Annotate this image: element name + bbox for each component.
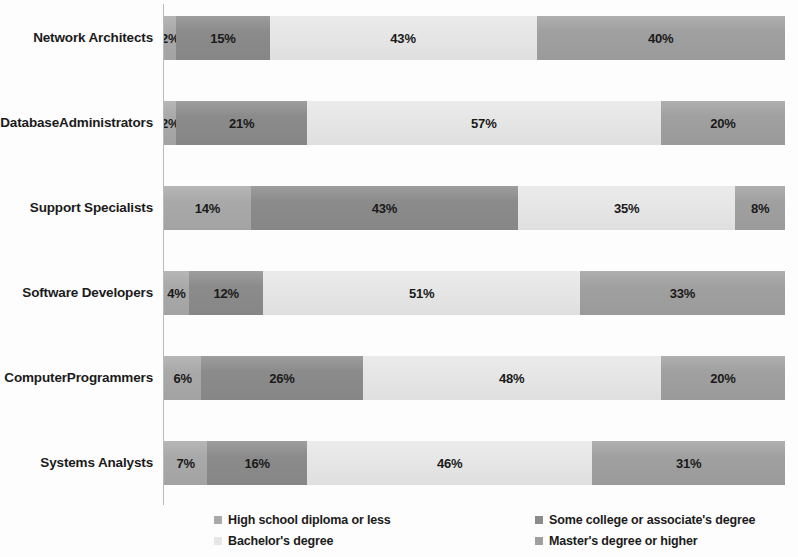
segment-value-label: 2% <box>164 116 176 131</box>
bar-row: Network Architects2%15%43%40% <box>0 16 798 101</box>
category-label-line: Support Specialists <box>30 200 153 216</box>
bar-segment: 2% <box>164 101 176 145</box>
category-label: Systems Analysts <box>0 441 155 485</box>
segment-value-label: 43% <box>372 201 397 216</box>
legend-item[interactable]: High school diploma or less <box>214 511 391 529</box>
legend-label: Some college or associate's degree <box>549 513 755 527</box>
stacked-bar: 4%12%51%33% <box>164 271 785 315</box>
bar-segment: 20% <box>661 101 785 145</box>
legend-swatch-icon <box>214 537 222 545</box>
stacked-bar: 7%16%46%31% <box>164 441 785 485</box>
category-label: Network Architects <box>0 16 155 60</box>
bar-segment: 4% <box>164 271 189 315</box>
stacked-bar: 14%43%35%8% <box>164 186 785 230</box>
legend-label: Bachelor's degree <box>228 534 333 548</box>
category-label: ComputerProgrammers <box>0 356 155 400</box>
category-label: DatabaseAdministrators <box>0 101 155 145</box>
bar-segment: 43% <box>251 186 518 230</box>
segment-value-label: 2% <box>164 31 176 46</box>
legend-item[interactable]: Some college or associate's degree <box>535 511 755 529</box>
bar-segment: 2% <box>164 16 176 60</box>
bar-segment: 40% <box>537 16 785 60</box>
segment-value-label: 21% <box>229 116 254 131</box>
segment-value-label: 26% <box>269 371 294 386</box>
bar-segment: 57% <box>307 101 661 145</box>
category-label: Software Developers <box>0 271 155 315</box>
segment-value-label: 43% <box>390 31 415 46</box>
segment-value-label: 14% <box>195 201 220 216</box>
bar-segment: 35% <box>518 186 735 230</box>
bar-segment: 8% <box>735 186 785 230</box>
category-label: Support Specialists <box>0 186 155 230</box>
bar-row: ComputerProgrammers6%26%48%20% <box>0 356 798 441</box>
bar-segment: 31% <box>592 441 785 485</box>
category-label-line: Administrators <box>59 115 153 131</box>
legend-item[interactable]: Master's degree or higher <box>535 532 698 550</box>
legend-swatch-icon <box>535 537 543 545</box>
category-label-line: Computer <box>4 370 67 386</box>
legend-swatch-icon <box>214 516 222 524</box>
segment-value-label: 20% <box>710 116 735 131</box>
legend-label: High school diploma or less <box>228 513 391 527</box>
bar-segment: 12% <box>189 271 264 315</box>
segment-value-label: 4% <box>167 286 185 301</box>
bar-segment: 43% <box>270 16 537 60</box>
bar-segment: 7% <box>164 441 207 485</box>
segment-value-label: 35% <box>614 201 639 216</box>
bar-segment: 46% <box>307 441 593 485</box>
legend-label: Master's degree or higher <box>549 534 698 548</box>
category-label-line: Programmers <box>67 370 153 386</box>
segment-value-label: 46% <box>437 456 462 471</box>
segment-value-label: 31% <box>676 456 701 471</box>
bar-segment: 48% <box>363 356 661 400</box>
bar-segment: 26% <box>201 356 362 400</box>
segment-value-label: 12% <box>213 286 238 301</box>
segment-value-label: 8% <box>751 201 769 216</box>
category-label-line: Software Developers <box>22 285 153 301</box>
category-label-line: Systems Analysts <box>40 455 153 471</box>
bar-segment: 16% <box>207 441 306 485</box>
segment-value-label: 40% <box>648 31 673 46</box>
legend-item[interactable]: Bachelor's degree <box>214 532 333 550</box>
bar-segment: 33% <box>580 271 785 315</box>
segment-value-label: 33% <box>670 286 695 301</box>
segment-value-label: 57% <box>471 116 496 131</box>
bar-segment: 21% <box>176 101 306 145</box>
legend-swatch-icon <box>535 516 543 524</box>
bar-segment: 14% <box>164 186 251 230</box>
bar-row: Support Specialists14%43%35%8% <box>0 186 798 271</box>
bar-row: Software Developers4%12%51%33% <box>0 271 798 356</box>
segment-value-label: 15% <box>210 31 235 46</box>
segment-value-label: 51% <box>409 286 434 301</box>
bar-segment: 6% <box>164 356 201 400</box>
bar-segment: 15% <box>176 16 269 60</box>
chart-legend: High school diploma or lessSome college … <box>0 505 798 557</box>
bar-segment: 20% <box>661 356 785 400</box>
segment-value-label: 16% <box>244 456 269 471</box>
bar-row: DatabaseAdministrators2%21%57%20% <box>0 101 798 186</box>
stacked-bar: 2%21%57%20% <box>164 101 785 145</box>
stacked-bar: 6%26%48%20% <box>164 356 785 400</box>
plot-area: Network Architects2%15%43%40%DatabaseAdm… <box>0 0 798 505</box>
category-label-line: Database <box>0 115 59 131</box>
segment-value-label: 48% <box>499 371 524 386</box>
stacked-bar: 2%15%43%40% <box>164 16 785 60</box>
segment-value-label: 6% <box>173 371 191 386</box>
bar-segment: 51% <box>263 271 580 315</box>
segment-value-label: 20% <box>710 371 735 386</box>
category-label-line: Network Architects <box>33 30 153 46</box>
segment-value-label: 7% <box>177 456 195 471</box>
stacked-bar-chart: Network Architects2%15%43%40%DatabaseAdm… <box>0 0 798 557</box>
